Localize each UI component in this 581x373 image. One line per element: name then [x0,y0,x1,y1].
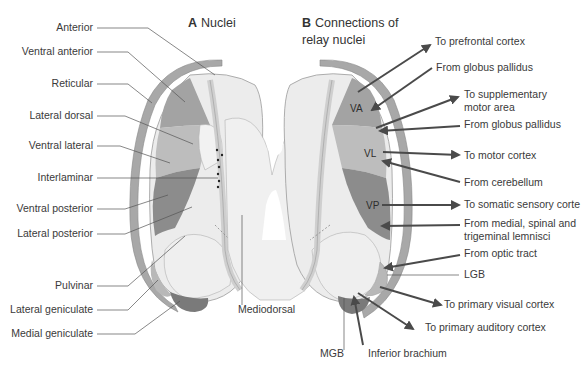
label-to-primary-auditory: To primary auditory cortex [425,321,547,333]
arrow-from-optic-tract [385,255,460,268]
label-medial-geniculate: Medial geniculate [11,327,93,339]
vl-label: VL [364,148,377,159]
label-mediodorsal: Mediodorsal [238,303,295,315]
label-lateral-dorsal: Lateral dorsal [29,109,93,121]
label-pulvinar: Pulvinar [55,279,93,291]
va-label: VA [350,103,363,114]
label-to-prefrontal: To prefrontal cortex [435,35,526,47]
label-lgb: LGB [464,268,485,280]
arrow-from-globus-pallidus-2 [380,126,460,131]
label-to-motor: To motor cortex [464,149,537,161]
label-to-somatic-sensory: To somatic sensory corte [464,198,580,210]
label-mgb: MGB [320,347,344,359]
label-to-supplementary-1: To supplementary [464,88,548,100]
label-from-globus-pallidus-2: From globus pallidus [464,118,561,130]
arrow-to-primary-visual [380,287,441,305]
arrow-from-cerebellum [383,161,460,182]
arrow-to-motor [383,152,459,155]
label-ventral-lateral: Ventral lateral [29,139,93,151]
label-from-cerebellum: From cerebellum [464,176,543,188]
panel-b-title-line1: BConnections of [302,16,399,30]
label-lateral-posterior: Lateral posterior [17,227,93,239]
vp-label: VP [366,200,380,211]
label-to-supplementary-2: motor area [464,101,515,113]
panel-a-title: ANuclei [188,16,236,30]
arrow-to-prefrontal [358,45,430,92]
label-from-lemnisci-2: trigeminal lemnisci [464,230,550,242]
label-inferior-brachium: Inferior brachium [368,347,447,359]
label-to-primary-visual: To primary visual cortex [444,298,555,310]
label-ventral-posterior: Ventral posterior [17,202,94,214]
label-ventral-anterior: Ventral anterior [22,45,94,57]
label-interlaminar: Interlaminar [38,171,94,183]
panel-b-title-line2: relay nuclei [302,33,365,47]
label-reticular: Reticular [52,77,94,89]
arrow-from-lemnisci [382,225,460,226]
label-from-lemnisci-1: From medial, spinal and [464,217,576,229]
label-anterior: Anterior [56,21,93,33]
thalamus-diagram: VA VL VP ANuclei BConnections of relay n… [0,0,581,373]
label-from-globus-pallidus-1: From globus pallidus [436,61,533,73]
label-from-optic-tract: From optic tract [464,247,537,259]
label-lateral-geniculate: Lateral geniculate [10,303,93,315]
